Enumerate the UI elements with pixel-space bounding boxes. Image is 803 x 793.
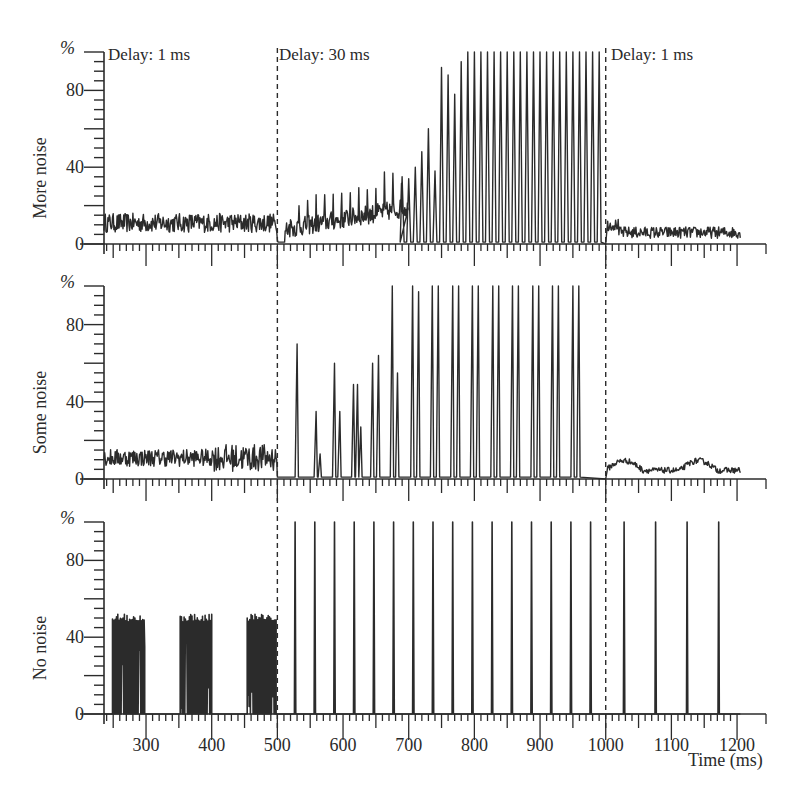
panels: 04080%More noise04080%Some noise04080%No…: [30, 38, 766, 740]
y-unit-label: %: [60, 272, 75, 292]
trace-line: [104, 52, 740, 244]
trace-line: [104, 522, 740, 714]
y-unit-label: %: [60, 38, 75, 58]
panel-y-label: More noise: [30, 137, 50, 218]
y-tick-label: 40: [66, 627, 84, 647]
phase-label-delay-30ms: Delay: 30 ms: [279, 45, 370, 64]
x-tick-label: 400: [198, 735, 225, 755]
y-tick-label: 40: [66, 392, 84, 412]
y-tick-label: 80: [66, 550, 84, 570]
trace-line: [104, 286, 740, 479]
x-axis-title: Time (ms): [688, 750, 763, 771]
panel-y-label: No noise: [30, 616, 50, 681]
x-tick-label: 700: [395, 735, 422, 755]
panel-y-label: Some noise: [30, 371, 50, 455]
x-axis-tick-labels: 300400500600700800900100011001200: [133, 735, 756, 755]
phase-label-delay-1ms: Delay: 1 ms: [108, 45, 190, 64]
phase-label-delay-1ms-second: Delay: 1 ms: [611, 45, 693, 64]
panel-more-noise: 04080%More noise: [30, 38, 766, 266]
x-tick-label: 800: [461, 735, 488, 755]
panel-no-noise: 04080%No noise: [30, 508, 766, 740]
x-tick-label: 900: [527, 735, 554, 755]
x-tick-label: 300: [133, 735, 160, 755]
y-tick-label: 80: [66, 80, 84, 100]
x-tick-label: 600: [330, 735, 357, 755]
chart: 04080%More noise04080%Some noise04080%No…: [0, 0, 803, 793]
y-unit-label: %: [60, 508, 75, 528]
x-tick-label: 500: [264, 735, 291, 755]
y-tick-label: 80: [66, 315, 84, 335]
y-tick-label: 40: [66, 157, 84, 177]
panel-some-noise: 04080%Some noise: [30, 272, 766, 501]
x-tick-label: 1000: [588, 735, 624, 755]
x-tick-label: 1100: [654, 735, 689, 755]
